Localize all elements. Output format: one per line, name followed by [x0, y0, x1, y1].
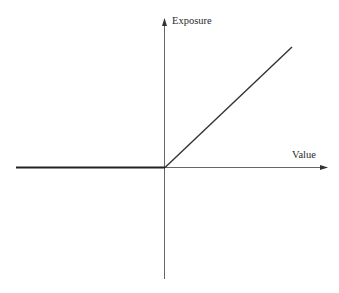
x-axis-label: Value — [292, 149, 316, 160]
exposure-diagram: Exposure Value — [0, 0, 339, 293]
y-axis-label: Exposure — [172, 15, 212, 26]
curve-rising-segment — [165, 47, 292, 168]
